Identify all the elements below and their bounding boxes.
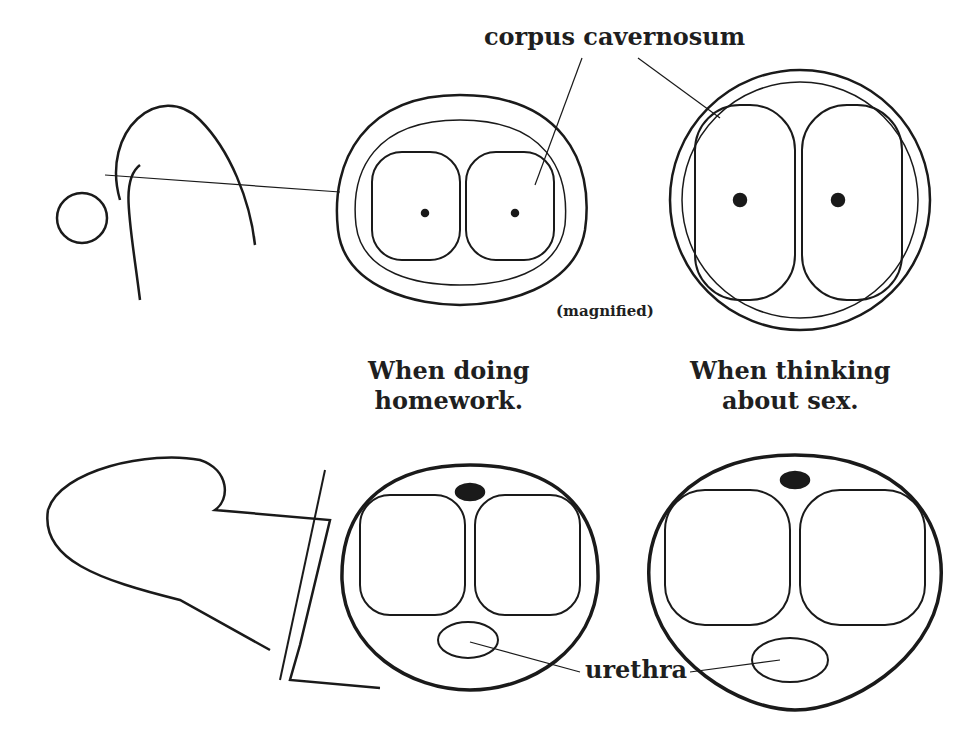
cross-section-erect-bottom [649,455,942,710]
caption-homework: When doing homework. [368,356,530,416]
magnified-note: (magnified) [556,302,654,320]
caption-thinking-line2: about sex. [690,386,891,416]
corpus-cavernosum-label: corpus cavernosum [484,22,745,51]
caption-homework-line1: When doing [368,356,530,386]
caption-homework-line2: homework. [368,386,530,416]
urethra-label: urethra [585,655,687,684]
caption-thinking: When thinking about sex. [690,356,891,416]
cross-section-relaxed-bottom [342,465,598,690]
cross-section-erect-top [670,70,930,330]
caption-thinking-line1: When thinking [690,356,891,386]
cross-section-relaxed-top [337,95,587,305]
side-view-outline-bottom [47,457,380,688]
side-view-outline-top [57,106,340,300]
